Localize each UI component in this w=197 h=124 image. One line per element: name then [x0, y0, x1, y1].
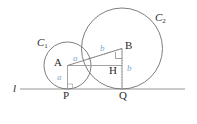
label-segment-a-slant: a: [73, 54, 78, 63]
label-point-b: B: [125, 40, 132, 51]
label-circle-c1-subscript: 1: [44, 42, 48, 50]
label-segment-b-vertical: b: [127, 64, 132, 73]
label-circle-c2-subscript: 2: [162, 17, 166, 25]
label-circle-c2: C2: [155, 12, 166, 25]
geometry-figure: l C1 C2 A B P Q H a a b b: [0, 0, 197, 124]
label-circle-c1: C1: [37, 37, 48, 50]
label-point-p: P: [63, 90, 69, 101]
label-line-l: l: [13, 83, 16, 94]
label-point-h: H: [109, 65, 117, 76]
diagram-canvas: [0, 0, 197, 124]
label-segment-b-slant: b: [100, 44, 105, 53]
right-angle-marker-b: [116, 52, 123, 59]
label-point-q: Q: [119, 90, 127, 101]
label-point-a: A: [54, 57, 62, 68]
label-segment-a-vertical: a: [57, 73, 62, 82]
